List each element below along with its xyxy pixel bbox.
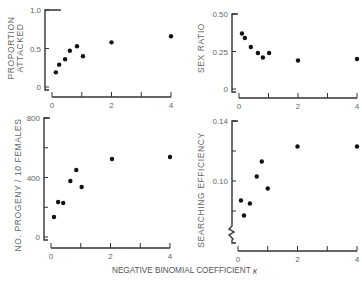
data-point bbox=[243, 36, 247, 40]
data-point bbox=[56, 200, 60, 204]
data-point bbox=[249, 45, 253, 49]
y-axis: 00.250.50 bbox=[212, 10, 238, 94]
x-tick-label: 2 bbox=[109, 101, 114, 110]
x-tick-label: 2 bbox=[295, 255, 300, 264]
panel-bottom-left: 0400800024NO. PROGENY / 10 FEMALES bbox=[13, 114, 173, 261]
y-axis-label: PROPORTIONATTACKED bbox=[6, 17, 25, 80]
y-tick-label: 1.0 bbox=[30, 6, 42, 15]
x-tick-label: 4 bbox=[355, 102, 360, 111]
y-axis-label: SEX RATIO bbox=[196, 23, 206, 73]
y-axis: 0400800 bbox=[27, 114, 50, 242]
data-point bbox=[242, 213, 246, 217]
y-tick-label: 0.14 bbox=[212, 117, 228, 126]
y-tick-label: 0 bbox=[37, 83, 42, 92]
svg-text:NEGATIVE BINOMIAL COEFFICIENT: NEGATIVE BINOMIAL COEFFICIENT bbox=[112, 266, 251, 275]
data-point bbox=[75, 44, 79, 48]
data-point bbox=[52, 215, 56, 219]
data-point bbox=[79, 185, 83, 189]
y-tick-label: 0 bbox=[224, 85, 229, 94]
data-point bbox=[296, 58, 300, 62]
svg-text:ATTACKED: ATTACKED bbox=[15, 24, 25, 73]
data-point bbox=[63, 57, 67, 61]
data-point bbox=[109, 40, 113, 44]
data-point bbox=[168, 155, 172, 159]
x-tick-label: 2 bbox=[108, 252, 113, 261]
data-point bbox=[74, 168, 78, 172]
data-point bbox=[110, 157, 114, 161]
data-point bbox=[261, 55, 265, 59]
data-point bbox=[355, 144, 359, 148]
x-axis: 024 bbox=[236, 246, 360, 264]
data-point bbox=[57, 62, 61, 66]
x-tick-label: 4 bbox=[168, 252, 173, 261]
y-tick-label: 0.10 bbox=[212, 177, 228, 186]
data-point bbox=[255, 174, 259, 178]
x-tick-label: 2 bbox=[296, 102, 301, 111]
data-point bbox=[256, 51, 260, 55]
panel-bottom-right: 0.100.14024SEARCHING EFFICIENCY bbox=[196, 117, 360, 264]
y-tick-label: 0.5 bbox=[30, 45, 42, 54]
x-tick-label: 0 bbox=[237, 102, 242, 111]
panel-top-right: 00.250.50024SEX RATIO bbox=[196, 10, 360, 111]
x-tick-label: 0 bbox=[49, 252, 54, 261]
x-axis: 024 bbox=[49, 243, 173, 261]
data-point bbox=[267, 51, 271, 55]
data-point bbox=[240, 31, 244, 35]
data-point bbox=[68, 179, 72, 183]
x-tick-label: 4 bbox=[169, 101, 174, 110]
y-tick-label: 0.25 bbox=[212, 48, 228, 57]
svg-text:SEX RATIO: SEX RATIO bbox=[196, 23, 206, 73]
svg-text:SEARCHING EFFICIENCY: SEARCHING EFFICIENCY bbox=[196, 132, 206, 247]
data-points bbox=[239, 144, 359, 217]
data-point bbox=[61, 201, 65, 205]
data-points bbox=[54, 34, 174, 75]
data-point bbox=[81, 54, 85, 58]
data-point bbox=[68, 49, 72, 53]
y-axis: 00.51.0 bbox=[30, 6, 61, 92]
data-point bbox=[169, 34, 173, 38]
x-axis: 024 bbox=[237, 93, 360, 111]
y-tick-label: 0 bbox=[36, 233, 41, 242]
x-axis: 024 bbox=[50, 92, 174, 110]
panel-top-left: 00.51.0024PROPORTIONATTACKED bbox=[6, 6, 174, 110]
figure: 00.51.0024PROPORTIONATTACKED00.250.50024… bbox=[0, 0, 362, 282]
data-point bbox=[266, 186, 270, 190]
data-point bbox=[355, 57, 359, 61]
data-point bbox=[248, 201, 252, 205]
data-point bbox=[295, 144, 299, 148]
y-axis-label: NO. PROGENY / 10 FEMALES bbox=[13, 119, 23, 252]
y-tick-label: 800 bbox=[27, 114, 41, 123]
x-tick-label: 0 bbox=[236, 255, 241, 264]
svg-text:κ: κ bbox=[253, 267, 258, 276]
y-tick-label: 400 bbox=[27, 174, 41, 183]
data-point bbox=[54, 70, 58, 74]
x-tick-label: 4 bbox=[355, 255, 360, 264]
data-points bbox=[240, 31, 359, 62]
y-axis: 0.100.14 bbox=[212, 117, 238, 243]
x-tick-label: 0 bbox=[50, 101, 55, 110]
data-point bbox=[239, 198, 243, 202]
svg-text:NO. PROGENY / 10 FEMALES: NO. PROGENY / 10 FEMALES bbox=[13, 119, 23, 252]
shared-x-label: NEGATIVE BINOMIAL COEFFICIENTκ bbox=[112, 266, 258, 276]
data-point bbox=[260, 159, 264, 163]
data-points bbox=[52, 155, 172, 219]
y-tick-label: 0.50 bbox=[212, 10, 228, 19]
y-axis-label: SEARCHING EFFICIENCY bbox=[196, 132, 206, 247]
